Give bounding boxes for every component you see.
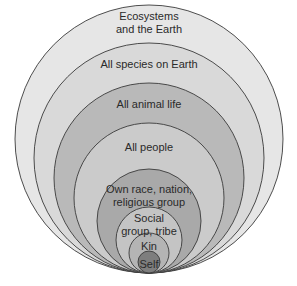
ring-label-own-race-nation: religious group	[113, 196, 185, 208]
ring-label-kin: Kin	[141, 240, 157, 252]
nested-circles-diagram: Ecosystemsand the EarthAll species on Ea…	[0, 0, 297, 286]
ring-label-ecosystems: Ecosystems	[119, 10, 179, 22]
ring-label-ecosystems: and the Earth	[116, 23, 182, 35]
ring-label-all-people: All people	[125, 141, 173, 153]
ring-label-social-group: group, tribe	[121, 225, 177, 237]
ring-label-all-species: All species on Earth	[100, 58, 197, 70]
ring-label-social-group: Social	[134, 212, 164, 224]
ring-label-own-race-nation: Own race, nation,	[106, 183, 192, 195]
ring-label-self: Self	[140, 258, 160, 270]
ring-label-all-animal-life: All animal life	[117, 98, 182, 110]
